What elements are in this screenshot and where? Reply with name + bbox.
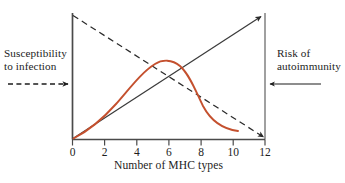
x-tick-label-8: 8 [191,146,211,158]
x-tick-label-6: 6 [159,146,179,158]
x-tick-label-10: 10 [223,146,243,158]
x-axis-ticks [73,140,266,146]
figure-container: Susceptibility to infection Risk of auto… [0,0,345,183]
x-axis-title: Number of MHC types [72,159,265,172]
x-tick-label-12: 12 [255,146,275,158]
x-tick-label-0: 0 [63,146,83,158]
immune-response-curve [74,61,239,139]
x-tick-label-2: 2 [95,146,115,158]
x-tick-label-4: 4 [127,146,147,158]
